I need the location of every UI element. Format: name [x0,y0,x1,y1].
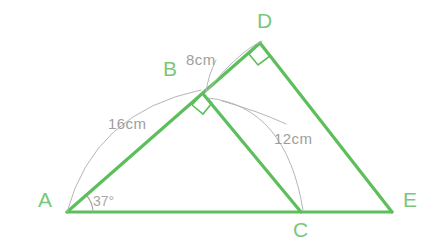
measure-label-BD: 8cm [186,52,216,67]
vertex-label-C: C [293,219,308,240]
vertex-label-B: B [163,58,177,79]
geometry-canvas [0,0,436,251]
geometry-figure: A B C D E 16cm 8cm 12cm 37° [0,0,436,251]
vertex-label-A: A [38,189,52,210]
right-angle-at-B-icon [192,103,212,114]
leader-group [206,60,286,124]
measure-BC-leader [222,101,286,124]
vertex-label-E: E [403,189,417,210]
right-angle-at-D-icon-closing2 [261,45,270,56]
vertex-label-D: D [257,10,272,31]
measure-label-BC: 12cm [274,131,312,146]
angle-label-A: 37° [93,194,114,208]
measure-arc-group [67,41,303,212]
measure-label-AB: 16cm [108,116,146,131]
right-angle-at-D-icon [249,54,270,65]
